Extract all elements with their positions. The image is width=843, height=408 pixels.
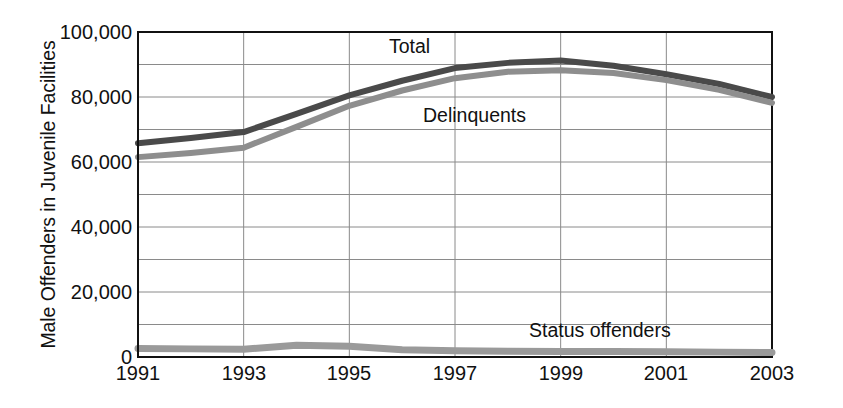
series-annotation-total: Total [389,36,430,56]
series-annotation-delinquents: Delinquents [423,105,526,125]
series-annotation-status-offenders: Status offenders [529,320,671,340]
plot-area [0,0,843,408]
line-chart: Male Offenders in Juvenile Facilities 10… [0,0,843,408]
